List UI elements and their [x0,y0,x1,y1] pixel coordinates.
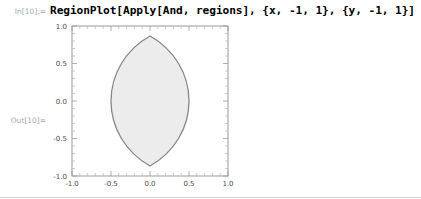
notebook-cell-group: In[10]:= RegionPlot[Apply[And, regions],… [0,0,421,199]
y-tick-label: 0.5 [56,60,67,68]
x-axis-tick-labels: -1.0 -0.5 0.0 0.5 1.0 [65,180,233,188]
region-plot-svg: -1.0 -0.5 0.0 0.5 1.0 1.0 0.5 0.0 -0.5 -… [46,22,246,197]
region-plot[interactable]: -1.0 -0.5 0.0 0.5 1.0 1.0 0.5 0.0 -0.5 -… [46,22,246,197]
y-tick-label: -0.5 [53,135,67,143]
y-tick-label: 1.0 [56,23,67,31]
output-cell-label: Out[10]= [2,116,46,125]
output-cell: Out[10]= [0,22,421,197]
x-tick-label: 1.0 [222,180,233,188]
lens-region-path [111,36,189,166]
input-cell[interactable]: In[10]:= RegionPlot[Apply[And, regions],… [0,0,421,22]
x-tick-label: 0.0 [144,180,155,188]
input-code-text[interactable]: RegionPlot[Apply[And, regions], {x, -1, … [50,3,415,18]
x-tick-label: -0.5 [104,180,118,188]
x-tick-label: 0.5 [183,180,194,188]
cell-separator-rule [0,197,421,198]
x-tick-label: -1.0 [65,180,79,188]
input-cell-label: In[10]:= [2,7,46,16]
y-axis-tick-labels: 1.0 0.5 0.0 -0.5 -1.0 [53,23,67,181]
plot-region-shape [111,36,189,166]
y-tick-label: 0.0 [56,98,67,106]
y-tick-label: -1.0 [53,173,67,181]
